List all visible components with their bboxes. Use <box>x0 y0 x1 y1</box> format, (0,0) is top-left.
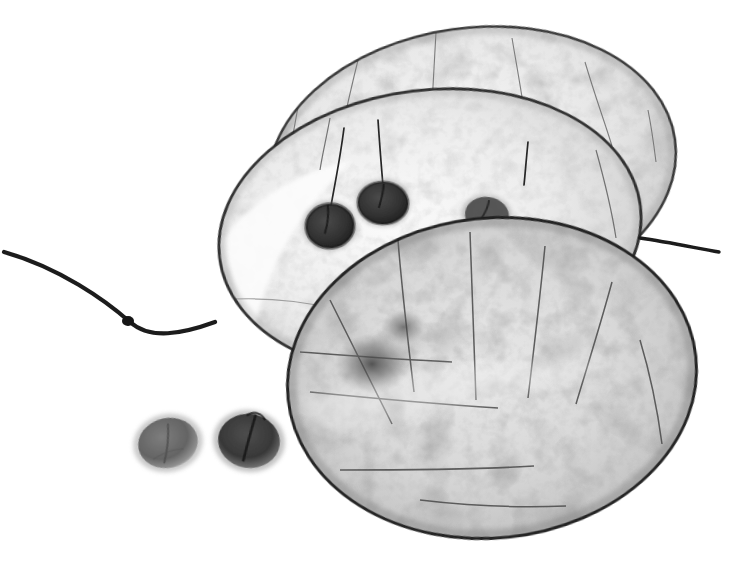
lunaria-radiograph <box>0 0 756 575</box>
image-canvas <box>0 0 756 575</box>
blotch-small <box>381 309 427 345</box>
stem-node <box>122 316 134 326</box>
